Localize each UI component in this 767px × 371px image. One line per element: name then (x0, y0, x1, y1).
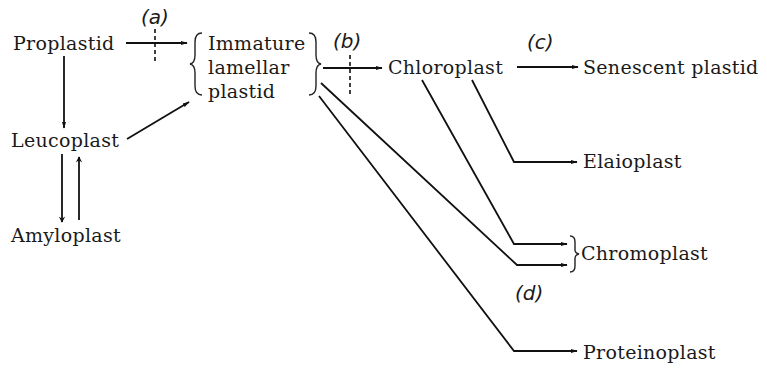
node-immature-line-3: plastid (208, 80, 275, 102)
node-immature-line-2: lamellar (208, 56, 290, 78)
node-senescent-plastid: Senescent plastid (583, 56, 759, 78)
node-proteinoplast: Proteinoplast (583, 341, 716, 363)
node-leucoplast: Leucoplast (11, 129, 119, 151)
right-brace-immature (309, 33, 321, 95)
node-immature-line-1: Immature (208, 32, 305, 54)
left-brace-immature (190, 33, 202, 95)
node-elaioplast: Elaioplast (583, 150, 682, 172)
label-d: (d) (515, 281, 543, 305)
node-amyloplast: Amyloplast (10, 224, 121, 246)
node-chloroplast: Chloroplast (388, 56, 503, 78)
arrow-chloroplast-to-elaioplast (472, 80, 577, 162)
brace-chromoplast (570, 236, 579, 272)
label-a: (a) (141, 5, 169, 29)
node-proplastid: Proplastid (13, 32, 115, 54)
label-b: (b) (333, 29, 361, 53)
node-chromoplast: Chromoplast (581, 242, 708, 264)
label-c: (c) (527, 30, 554, 54)
arrow-immature-to-chromoplast (321, 83, 567, 265)
arrow-leucoplast-to-immature (127, 102, 189, 139)
arrow-immature-to-proteinoplast (319, 96, 577, 351)
plastid-diagram: Proplastid Immature lamellar plastid Leu… (0, 0, 767, 371)
